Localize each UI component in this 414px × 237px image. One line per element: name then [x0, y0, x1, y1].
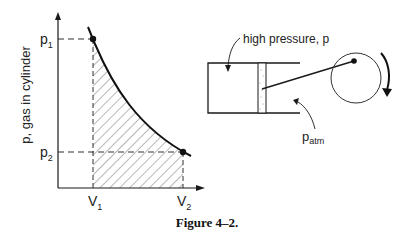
v1-label: V1	[88, 193, 102, 212]
x-axis-arrow-icon	[196, 185, 205, 191]
high-pressure-arrow-icon	[225, 65, 231, 72]
high-pressure-label: high pressure, p	[243, 32, 329, 46]
y-axis-label: p, gas in cylinder	[18, 46, 33, 144]
rotation-arrow-icon	[381, 53, 389, 90]
crank-pin	[351, 58, 357, 64]
figure-canvas: p1 p2 V1 V2 p, gas in cylinder high pres…	[0, 0, 414, 237]
patm-label: patm	[302, 129, 324, 146]
p1-label: p1	[40, 31, 53, 50]
work-area-hatch	[93, 39, 183, 188]
cylinder-wall	[208, 63, 300, 113]
pv-diagram: p1 p2 V1 V2 p, gas in cylinder	[18, 12, 205, 212]
y-axis-arrow-icon	[55, 12, 61, 20]
p2-label: p2	[40, 144, 53, 163]
state-point-2	[180, 149, 186, 155]
patm-leader	[298, 102, 315, 129]
patm-arrow-icon	[293, 98, 299, 105]
piston-cylinder-diagram: high pressure, p patm	[208, 32, 392, 146]
state-point-1	[90, 36, 96, 42]
high-pressure-leader	[228, 38, 240, 66]
connecting-rod	[262, 61, 354, 89]
v2-label: V2	[177, 193, 191, 212]
figure-caption: Figure 4–2.	[176, 215, 239, 230]
